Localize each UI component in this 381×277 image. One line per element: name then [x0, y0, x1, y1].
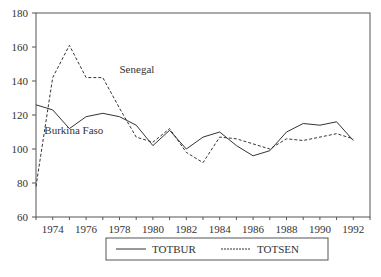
- line-chart: 6080100120140160180197419761978198019821…: [0, 0, 381, 277]
- y-tick-label: 140: [12, 75, 29, 87]
- y-tick-label: 180: [12, 7, 29, 19]
- y-tick-label: 100: [12, 143, 29, 155]
- series-line-totsen: [36, 45, 353, 186]
- y-tick-label: 80: [17, 177, 29, 189]
- legend-label: TOTSEN: [257, 243, 299, 255]
- annotation-label: Burkina Faso: [44, 124, 103, 136]
- x-tick-label: 1978: [109, 223, 132, 235]
- plot-frame: [36, 13, 370, 217]
- x-tick-label: 1990: [309, 223, 332, 235]
- x-tick-label: 1974: [42, 223, 65, 235]
- annotation-label: Senegal: [120, 63, 155, 75]
- y-tick-label: 120: [12, 109, 29, 121]
- x-tick-label: 1984: [209, 223, 232, 235]
- x-tick-label: 1976: [75, 223, 98, 235]
- y-tick-label: 60: [17, 211, 29, 223]
- y-tick-label: 160: [12, 41, 29, 53]
- legend-label: TOTBUR: [152, 243, 196, 255]
- x-tick-label: 1992: [342, 223, 364, 235]
- x-tick-label: 1986: [242, 223, 265, 235]
- x-tick-label: 1980: [142, 223, 165, 235]
- x-tick-label: 1988: [276, 223, 299, 235]
- x-tick-label: 1982: [175, 223, 197, 235]
